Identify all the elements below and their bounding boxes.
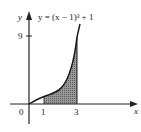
equation-label: y = (x − 1)³ + 1: [38, 12, 93, 22]
x-tick-label-1: 1: [41, 107, 46, 117]
shaded-area: [44, 37, 77, 104]
x-axis-label: x: [133, 106, 138, 116]
y-tick-label-9: 9: [18, 31, 23, 41]
origin-label: 0: [19, 107, 24, 117]
x-tick-label-3: 3: [74, 107, 79, 117]
y-axis-arrow-icon: [26, 11, 32, 20]
y-axis-label: y: [17, 12, 22, 22]
chart: y y = (x − 1)³ + 1 9 0 1 3 x: [0, 0, 141, 132]
